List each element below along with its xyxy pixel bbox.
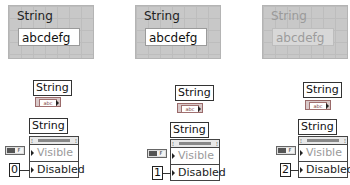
property-node[interactable]: ⁝ ⁝ Visible Disabled xyxy=(170,139,220,181)
string-input: abcdefg xyxy=(272,28,334,46)
ref-in-icon: ⁝ xyxy=(300,137,302,144)
property-node[interactable]: ⁝ ⁝ Visible Disabled xyxy=(29,136,79,178)
true-icon xyxy=(278,148,286,153)
string-control-grayed: String abcdefg xyxy=(262,5,348,59)
input-arrow-icon xyxy=(31,167,34,173)
property-disabled[interactable]: Disabled xyxy=(171,164,219,181)
false-icon: F xyxy=(15,148,23,153)
reference-bar xyxy=(307,139,339,142)
wire xyxy=(291,170,299,171)
false-icon: F xyxy=(286,148,294,153)
reference-bar xyxy=(38,139,70,142)
input-arrow-icon xyxy=(31,150,34,156)
property-visible[interactable]: Visible xyxy=(30,144,78,162)
ref-out-icon: ⁝ xyxy=(75,137,77,144)
input-arrow-icon xyxy=(300,167,303,173)
ref-in-icon: ⁝ xyxy=(172,140,174,147)
false-icon: F xyxy=(157,151,165,156)
abc-icon: abc xyxy=(309,102,327,110)
property-disabled[interactable]: Disabled xyxy=(30,161,78,178)
abc-icon: abc xyxy=(39,99,57,107)
input-arrow-icon xyxy=(300,150,303,156)
string-terminal[interactable]: abc xyxy=(305,100,331,110)
boolean-constant[interactable]: F xyxy=(5,146,25,155)
input-arrow-icon xyxy=(172,170,175,176)
property-visible[interactable]: Visible xyxy=(299,144,347,162)
abc-icon: abc xyxy=(181,105,199,113)
boolean-constant[interactable]: F xyxy=(147,149,167,158)
string-control-disabled: String abcdefg xyxy=(135,5,221,59)
output-arrow-icon xyxy=(56,100,59,106)
disabled-constant[interactable]: 1 xyxy=(152,166,163,180)
true-icon xyxy=(149,151,157,156)
ref-out-icon: ⁝ xyxy=(216,140,218,147)
input-arrow-icon xyxy=(172,153,175,159)
ref-out-icon: ⁝ xyxy=(344,137,346,144)
string-control-enabled: String abcdefg xyxy=(8,5,94,59)
terminal-label: String xyxy=(33,80,72,96)
wire xyxy=(20,170,30,171)
string-control-label: String xyxy=(17,9,53,23)
property-node[interactable]: ⁝ ⁝ Visible Disabled xyxy=(298,136,348,178)
disabled-constant[interactable]: 2 xyxy=(280,163,291,177)
string-input[interactable]: abcdefg xyxy=(145,28,207,46)
wire xyxy=(163,173,171,174)
terminal-label: String xyxy=(175,85,214,101)
string-control-label: String xyxy=(271,9,307,23)
output-arrow-icon xyxy=(198,106,201,112)
boolean-constant[interactable]: F xyxy=(276,146,296,155)
property-disabled[interactable]: Disabled xyxy=(299,161,347,178)
string-input[interactable]: abcdefg xyxy=(18,28,80,46)
string-control-label: String xyxy=(144,9,180,23)
reference-bar xyxy=(179,142,211,145)
property-node-label: String xyxy=(170,122,209,138)
property-node-label: String xyxy=(298,119,337,135)
disabled-constant[interactable]: 0 xyxy=(9,163,20,177)
true-icon xyxy=(7,148,15,153)
string-terminal[interactable]: abc xyxy=(177,103,203,113)
string-terminal[interactable]: abc xyxy=(35,97,61,107)
property-visible[interactable]: Visible xyxy=(171,147,219,165)
ref-in-icon: ⁝ xyxy=(31,137,33,144)
terminal-label: String xyxy=(303,82,342,98)
property-node-label: String xyxy=(29,118,68,134)
output-arrow-icon xyxy=(326,103,329,109)
